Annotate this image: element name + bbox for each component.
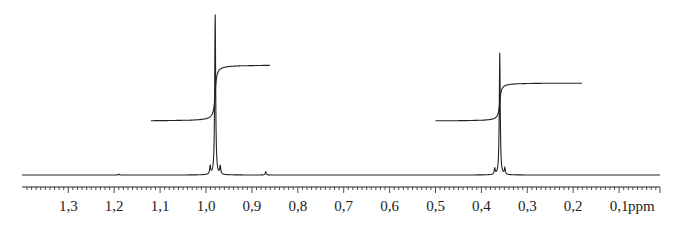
axis-tick-label: 0,2 [564, 198, 583, 215]
axis-tick-label: 0,8 [288, 198, 307, 215]
axis-tick-label: 0,5 [426, 198, 445, 215]
axis-tick-label: 0,9 [243, 198, 262, 215]
ppm-axis [22, 187, 660, 193]
spectrum-trace [22, 14, 660, 175]
axis-tick-label: 0,4 [472, 198, 491, 215]
axis-tick-label: 1,0 [197, 198, 216, 215]
axis-tick-label: 0,6 [380, 198, 399, 215]
axis-tick-label: 1,3 [59, 198, 78, 215]
axis-tick-label: 0,3 [518, 198, 537, 215]
axis-tick-label: 0,7 [334, 198, 353, 215]
nmr-spectrum-plot [0, 0, 681, 228]
axis-unit-label: ppm [628, 198, 655, 215]
axis-tick-label: 1,2 [105, 198, 124, 215]
axis-tick-label: 0,1 [610, 198, 629, 215]
axis-tick-label: 1,1 [151, 198, 170, 215]
